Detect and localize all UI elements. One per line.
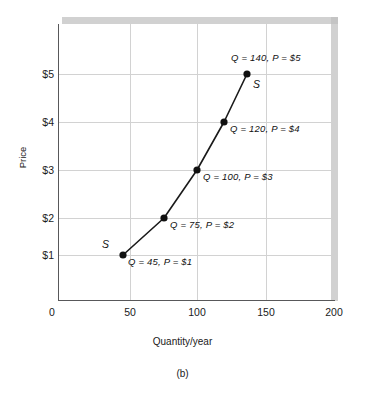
annotation-point-4: Q = 120, P = $4	[230, 123, 300, 134]
panel-caption: (b)	[0, 368, 365, 379]
curve-label-s-lower: S	[102, 238, 109, 250]
annotation-point-2: Q = 75, P = $2	[170, 219, 234, 230]
annotation-point-3: Q = 100, P = $3	[203, 171, 273, 182]
data-point-marker-3	[193, 166, 200, 173]
supply-curve-figure: $5 $4 $3 $2 $1 0 50 100 150 200 Price Qu…	[0, 0, 365, 395]
supply-curve-layer	[0, 0, 365, 395]
data-point-marker-2	[160, 214, 167, 221]
annotation-point-1: Q = 45, P = $1	[128, 256, 192, 267]
curve-label-s-upper: S	[253, 78, 260, 90]
annotation-point-5: Q = 140, P = $5	[231, 52, 301, 63]
data-point-marker-5	[243, 70, 250, 77]
data-point-marker-1	[119, 251, 126, 258]
data-point-marker-4	[220, 118, 227, 125]
